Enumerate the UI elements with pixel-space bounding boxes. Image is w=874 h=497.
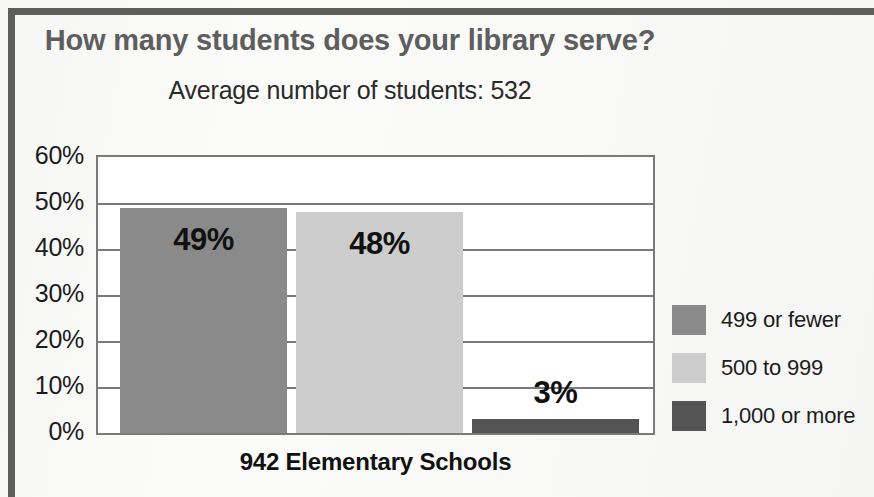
y-axis-tick-10: 10%: [0, 371, 84, 400]
bar-value-label-2: 48%: [296, 226, 463, 262]
y-axis-tick-0: 0%: [0, 417, 84, 446]
legend-item-3: 1,000 or more: [672, 392, 855, 440]
y-axis-tick-40: 40%: [0, 233, 84, 262]
chart-subtitle: Average number of students: 532: [0, 76, 700, 105]
y-axis-tick-30: 30%: [0, 279, 84, 308]
legend-swatch-icon-1: [672, 305, 706, 335]
legend-swatch-icon-3: [672, 401, 706, 431]
legend-item-1: 499 or fewer: [672, 296, 855, 344]
bar-series: 49%48%3%: [96, 155, 655, 435]
legend-label-3: 1,000 or more: [721, 403, 855, 429]
y-axis-tick-20: 20%: [0, 325, 84, 354]
legend-item-2: 500 to 999: [672, 344, 855, 392]
bar-value-label-3: 3%: [472, 375, 639, 411]
x-axis-label: 942 Elementary Schools: [96, 448, 655, 476]
legend-label-1: 499 or fewer: [721, 307, 841, 333]
y-axis-tick-60: 60%: [0, 141, 84, 170]
bar-value-label-1: 49%: [120, 222, 287, 258]
bar-3: [472, 419, 639, 433]
y-axis-tick-50: 50%: [0, 187, 84, 216]
chart-page: How many students does your library serv…: [0, 0, 874, 497]
legend-label-2: 500 to 999: [721, 355, 823, 381]
legend-swatch-icon-2: [672, 353, 706, 383]
chart-title: How many students does your library serv…: [0, 24, 700, 57]
page-border-top: [8, 8, 874, 15]
chart-legend: 499 or fewer500 to 9991,000 or more: [672, 296, 855, 440]
